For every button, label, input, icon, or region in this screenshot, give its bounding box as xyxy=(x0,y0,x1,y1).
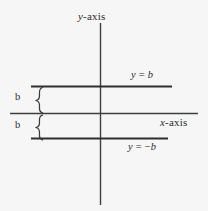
label-y-equals-b-value: b xyxy=(148,69,153,80)
x-axis-label-suffix: -axis xyxy=(165,116,187,128)
brace-lower-label: b xyxy=(15,120,20,131)
brace-upper xyxy=(36,88,43,113)
label-y-equals-b: y = b xyxy=(131,70,153,81)
label-y-equals-negative-b-value: b xyxy=(151,141,156,152)
y-axis-label: y-axis xyxy=(78,11,105,22)
brace-upper-label: b xyxy=(15,92,20,103)
x-axis-label: x-axis xyxy=(160,117,187,128)
figure-canvas xyxy=(0,0,208,211)
label-y-equals-b-operator: = xyxy=(136,69,148,80)
math-figure-coordinate-plane: y-axis x-axis y = b y = −b b b xyxy=(0,0,208,211)
y-axis-label-suffix: -axis xyxy=(83,10,105,22)
label-y-equals-negative-b: y = −b xyxy=(128,142,156,153)
brace-lower xyxy=(36,115,43,140)
label-y-equals-negative-b-operator: = − xyxy=(133,141,151,152)
